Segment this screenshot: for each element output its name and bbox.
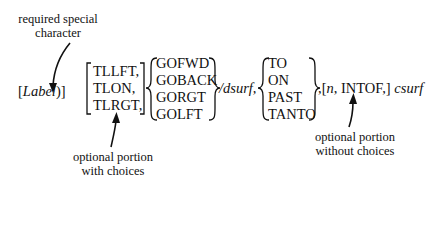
option-on: ON [268,72,316,89]
annotation-optional-without-choices: optional portion without choices [305,130,405,158]
option-to: TO [268,55,316,72]
group-go-options: GOFWD GOBACK GORGT GOLFT [156,55,217,123]
annotation-optional-with-choices: optional portion with choices [63,150,163,178]
option-golft: GOLFT [156,106,217,123]
n-text: n [326,80,333,96]
csurf-text: csurf [394,80,423,96]
group-turn-options: TLLFT, TLON, TLRGT, [93,63,142,114]
annotation-line: optional portion [63,150,163,164]
option-tllft: TLLFT, [93,63,142,80]
label-text: Label [23,83,56,99]
option-gorgt: GORGT [156,89,217,106]
option-goback: GOBACK [156,72,217,89]
annotation-line: optional portion [305,130,405,144]
comma: , [253,80,257,96]
dsurf-token: /dsurf, [219,80,256,97]
option-tlrgt: TLRGT, [93,97,142,114]
option-tanto: TANTO [268,106,316,123]
intof-text: , INTOF,] [334,80,391,96]
csurf-token: ,[n, INTOF,] csurf [318,80,423,97]
option-past: PAST [268,89,316,106]
dsurf-text: dsurf [223,80,253,96]
group-modifier-options: TO ON PAST TANTO [268,55,316,123]
option-tlon: TLON, [93,80,142,97]
label-token: [Label)] [18,83,66,100]
close-paren-bracket: )] [56,83,66,99]
option-gofwd: GOFWD [156,55,217,72]
annotation-line: without choices [305,144,405,158]
annotation-line: with choices [63,164,163,178]
